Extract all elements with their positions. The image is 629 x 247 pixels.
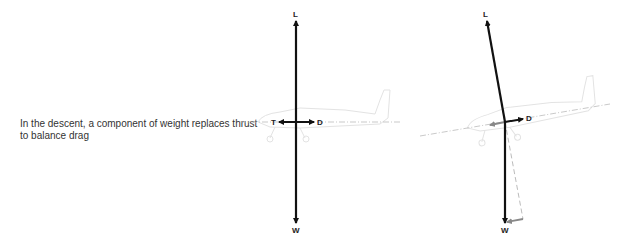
level-flight-diagram: L W T D <box>240 10 400 235</box>
weight-component-arrow <box>507 219 523 222</box>
force-diagram: L W T D L W D <box>0 0 629 247</box>
weight-label-level: W <box>292 226 300 235</box>
aircraft-outline-descent <box>462 76 601 148</box>
drag-arrow-descent <box>505 119 523 122</box>
drag-label-level: D <box>317 118 323 127</box>
lift-label-level: L <box>293 10 298 19</box>
aircraft-outline-level <box>258 90 390 142</box>
weight-label-descent: W <box>501 226 509 235</box>
drag-label-descent: D <box>526 114 532 123</box>
thrust-label-level: T <box>271 118 276 127</box>
opposing-component-arrow <box>490 122 505 125</box>
descent-diagram: L W D <box>420 10 610 235</box>
lift-label-descent: L <box>483 10 488 19</box>
lift-arrow-descent <box>487 21 505 122</box>
